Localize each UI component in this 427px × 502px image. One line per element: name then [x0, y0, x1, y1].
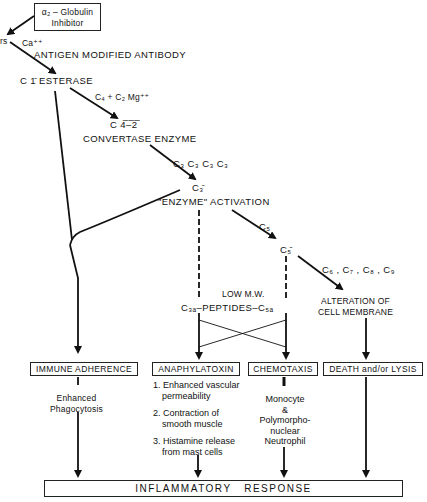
phagocytosis-line1: Enhanced	[50, 393, 103, 404]
alteration-line2: CELL MEMBRANE	[318, 307, 393, 318]
neutrophil: Neutrophil	[254, 436, 316, 447]
c42-complex: C 4̅–̅2̅	[110, 120, 137, 130]
anaphylatoxin-box: ANAPHYLATOXIN	[152, 362, 240, 376]
calcium-label: Ca⁺⁺	[22, 39, 43, 48]
alpha2-globulin-inhibitor-box: α₂ – Globulin Inhibitor	[34, 3, 101, 31]
enhanced-phagocytosis: Enhanced Phagocytosis	[50, 393, 103, 415]
inhibitor-line1: α₂ – Globulin	[35, 7, 100, 18]
monocyte: Monocyte	[254, 394, 316, 405]
polymorpho: Polymorpho-	[254, 415, 316, 426]
left-fragment: rs	[0, 37, 7, 46]
convertase-enzyme: CONVERTASE ENZYME	[83, 134, 197, 144]
c3-activated: C₃̄	[192, 183, 204, 193]
chemotaxis-box: CHEMOTAXIS	[248, 362, 318, 376]
c3-series: C₃ C₃ C₃ C₃	[173, 159, 228, 169]
inhibitor-line2: Inhibitor	[35, 18, 100, 29]
c5-activated: C₅̄	[280, 245, 292, 255]
low-mw: LOW M.W.	[222, 290, 265, 299]
nuclear: nuclear	[254, 426, 316, 437]
effect-3: 3. Histamine releasefrom mast cells	[153, 436, 240, 458]
c6-c9: C₆ , C₇ , C₈ , C₉	[322, 265, 395, 275]
c3a-peptides-c5a: C₃ₐ–PEPTIDES–C₅ₐ	[181, 303, 273, 313]
anaphylatoxin-effects: 1. Enhanced vascularpermeability 2. Cont…	[153, 380, 240, 464]
ampersand: &	[254, 405, 316, 416]
alteration-line1: ALTERATION OF	[318, 296, 393, 307]
chemotaxis-cells: Monocyte & Polymorpho- nuclear Neutrophi…	[254, 394, 316, 447]
enzyme-activation: "ENZYME" ACTIVATION	[158, 197, 270, 207]
immune-adherence-box: IMMUNE ADHERENCE	[30, 362, 138, 376]
effect-2: 2. Contraction ofsmooth muscle	[153, 408, 240, 430]
c4-c2-mg: C₄ + C₂ Mg⁺⁺	[95, 93, 149, 102]
phagocytosis-line2: Phagocytosis	[50, 404, 103, 415]
c5-label: C₅	[259, 222, 271, 232]
alteration-of-cell-membrane: ALTERATION OF CELL MEMBRANE	[318, 296, 393, 318]
inflammatory-response-box: INFLAMMATORY RESPONSE	[44, 480, 403, 497]
antigen-modified-antibody: ANTIGEN MODIFIED ANTIBODY	[34, 50, 186, 60]
death-lysis-box: DEATH and/or LYSIS	[323, 362, 423, 376]
c1-esterase: C 1̄ ESTERASE	[20, 76, 93, 86]
effect-1: 1. Enhanced vascularpermeability	[153, 380, 240, 402]
